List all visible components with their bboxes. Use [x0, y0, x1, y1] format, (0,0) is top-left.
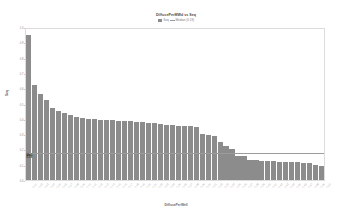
y-tick-label: 0.5: [20, 103, 24, 106]
y-tick-label: 0.9: [20, 42, 24, 45]
y-tick-label: 0.8: [20, 57, 24, 60]
x-tick-label: C-39: [259, 183, 265, 189]
bar: [253, 160, 258, 180]
x-tick-label: C-26: [181, 183, 187, 189]
x-tick-label: C-05: [55, 183, 61, 189]
bar: [241, 156, 246, 180]
bar: [283, 162, 288, 180]
bar: [247, 160, 252, 180]
bar: [313, 165, 318, 180]
bar: [277, 162, 282, 180]
bar: [110, 120, 115, 180]
x-tick-label: C-33: [223, 183, 229, 189]
x-tick-label: C-10: [85, 183, 91, 189]
bar: [289, 162, 294, 180]
x-tick-label: C-48: [313, 183, 319, 189]
x-tick-label: C-07: [67, 183, 73, 189]
x-tick-label: C-04: [49, 183, 55, 189]
x-tick-label: C-14: [109, 183, 115, 189]
x-tick-label: C-46: [301, 183, 307, 189]
bar: [265, 161, 270, 180]
legend-item-series: Seq: [158, 19, 169, 22]
bar: [200, 134, 205, 180]
plot-area: Med 0.19: [25, 28, 325, 181]
x-tick-label: C-20: [145, 183, 151, 189]
legend-label-series: Seq: [163, 19, 168, 22]
x-tick-label: C-16: [121, 183, 127, 189]
x-tick-label: C-11: [91, 183, 97, 189]
x-tick-label: C-32: [217, 183, 223, 189]
x-tick-label: C-01: [31, 183, 37, 189]
x-tick-label: C-29: [199, 183, 205, 189]
bar: [80, 118, 85, 180]
x-tick-label: C-18: [133, 183, 139, 189]
legend-label-median: Median (0.19): [176, 19, 195, 22]
y-tick-label: 1.0: [20, 27, 24, 30]
bar: [152, 123, 157, 180]
x-tick-label: C-09: [79, 183, 85, 189]
bar: [295, 162, 300, 180]
bar: [212, 136, 217, 180]
x-tick-label: C-08: [73, 183, 79, 189]
legend-line-icon: [170, 20, 175, 21]
bar: [307, 163, 312, 180]
x-tick-label: C-22: [157, 183, 163, 189]
bar: [122, 121, 127, 180]
x-tick-label: C-30: [205, 183, 211, 189]
x-tick-label: C-17: [127, 183, 133, 189]
bar: [32, 85, 37, 180]
bar: [68, 115, 73, 180]
x-tick-label: C-23: [163, 183, 169, 189]
bar-series: [26, 29, 324, 180]
y-tick-label: 0.1: [20, 164, 24, 167]
bar: [259, 161, 264, 180]
legend-item-median: Median (0.19): [170, 19, 194, 22]
bar: [92, 119, 97, 180]
x-tick-label: C-47: [307, 183, 313, 189]
median-reference-line: [26, 153, 324, 154]
legend-swatch-icon: [158, 19, 163, 21]
x-tick-label: C-34: [229, 183, 235, 189]
x-tick-label: C-38: [253, 183, 259, 189]
x-tick-label: C-36: [241, 183, 247, 189]
y-axis-ticks: 0.00.10.20.30.40.50.60.70.80.91.0: [0, 28, 25, 181]
median-reference-label: Med 0.19: [27, 154, 33, 160]
x-tick-label: C-49: [319, 183, 325, 189]
x-tick-label: C-02: [37, 183, 43, 189]
x-axis-title: DiffusePerWell: [0, 203, 352, 207]
bar: [235, 156, 240, 180]
x-tick-label: C-03: [43, 183, 49, 189]
x-tick-label: C-40: [265, 183, 271, 189]
x-tick-label: C-50: [325, 183, 331, 189]
bar: [86, 119, 91, 180]
x-tick-label: C-19: [139, 183, 145, 189]
bar: [74, 117, 79, 180]
x-tick-label: C-06: [61, 183, 67, 189]
x-tick-label: C-31: [211, 183, 217, 189]
bar: [104, 120, 109, 180]
chart-title: DiffusePerMWd vs Seq: [0, 14, 352, 18]
x-tick-label: C-35: [235, 183, 241, 189]
bar: [38, 94, 43, 180]
y-tick-label: 0.6: [20, 88, 24, 91]
chart-figure: DiffusePerMWd vs Seq Seq Median (0.19) 0…: [0, 0, 352, 219]
bar: [301, 163, 306, 180]
bar: [140, 122, 145, 180]
x-tick-label: C-45: [295, 183, 301, 189]
x-tick-label: C-43: [283, 183, 289, 189]
bar: [223, 146, 228, 180]
title-block: DiffusePerMWd vs Seq Seq Median (0.19): [0, 14, 352, 22]
bar: [206, 135, 211, 180]
bar: [62, 113, 67, 180]
x-tick-label: C-41: [271, 183, 277, 189]
bar: [146, 123, 151, 180]
y-tick-label: 0.3: [20, 134, 24, 137]
y-tick-label: 0.2: [20, 149, 24, 152]
x-tick-label: C-21: [151, 183, 157, 189]
x-tick-label: C-42: [277, 183, 283, 189]
y-tick-label: 0.0: [20, 180, 24, 183]
bar: [271, 161, 276, 180]
x-tick-label: C-37: [247, 183, 253, 189]
x-tick-label: C-12: [97, 183, 103, 189]
x-tick-label: C-28: [193, 183, 199, 189]
